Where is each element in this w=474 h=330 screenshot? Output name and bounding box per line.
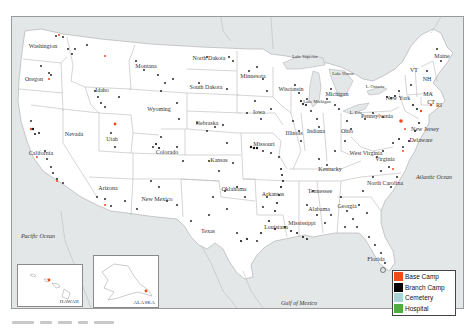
state-label-delaware: Delaware	[410, 137, 433, 143]
state-label-california: California	[29, 150, 53, 156]
state-label-michigan: Michigan	[326, 91, 349, 97]
state-label-new-jersey: New Jersey	[411, 126, 439, 132]
ocean-label-pacific-ocean: Pacific Ocean	[21, 233, 55, 239]
state-label-tennessee: Tennessee	[308, 188, 333, 194]
state-label-colorado: Colorado	[156, 149, 178, 155]
lake-label-lake-michigan: Lake Michigan	[303, 99, 330, 104]
hawaii-inset: HAWAII	[17, 264, 83, 307]
state-label-wyoming: Wyoming	[147, 106, 171, 112]
hawaii-label: HAWAII	[60, 299, 79, 304]
ocean-label-atlantic-ocean: Atlantic Ocean	[416, 174, 452, 180]
map-caption	[12, 318, 114, 326]
state-label-north-carolina: North Carolina	[367, 180, 403, 186]
state-label-nh: NH	[423, 76, 432, 82]
map-frame: WashingtonOregonCaliforniaNevadaIdahoMon…	[11, 16, 464, 309]
state-label-washington: Washington	[29, 43, 58, 49]
state-label-oklahoma: Oklahoma	[222, 186, 247, 192]
state-label-kentucky: Kentucky	[318, 166, 341, 172]
state-label-indiana: Indiana	[307, 128, 325, 134]
state-label-pennsylvania: Pennsylvania	[361, 113, 393, 119]
ocean-label-gulf-of-mexico: Gulf of Mexico	[281, 300, 317, 306]
legend-item-base-camp: Base Camp	[393, 272, 455, 282]
state-label-florida: Florida	[367, 256, 384, 262]
state-label-minnesota: Minnesota	[240, 73, 265, 79]
state-label-new-mexico: New Mexico	[141, 196, 172, 202]
state-label-nebraska: Nebraska	[196, 120, 219, 126]
state-label-ri: RI	[436, 102, 442, 108]
state-label-louisiana: Louisiana	[264, 224, 288, 230]
state-label-alabama: Alabama	[308, 206, 330, 212]
state-label-illinois: Illinois	[285, 130, 302, 136]
state-label-maine: Maine	[434, 53, 449, 59]
state-label-nevada: Nevada	[65, 131, 83, 137]
state-label-wisconsin: Wisconsin	[278, 86, 303, 92]
legend-label: Cemetery	[405, 294, 433, 301]
lake-label-l-ontario: L. Ontario	[366, 84, 385, 89]
florida-marker	[381, 268, 386, 273]
state-label-south-dakota: South Dakota	[190, 84, 223, 90]
state-label-oregon: Oregon	[25, 76, 43, 82]
state-label-new-york: New York	[386, 95, 410, 101]
state-label-vt: VT	[410, 67, 418, 73]
us-landmass	[18, 29, 453, 279]
state-label-ohio: Ohio	[341, 128, 353, 134]
map-legend: Base Camp Branch Camp Cemetery Hospital	[392, 270, 456, 316]
branch-camp-swatch	[394, 283, 403, 292]
cemetery-swatch	[394, 293, 403, 302]
state-label-idaho: Idaho	[95, 87, 109, 93]
alaska-label: ALASKA	[134, 300, 155, 305]
alaska-inset: ALASKA	[93, 255, 159, 308]
state-label-texas: Texas	[201, 228, 215, 234]
state-label-missouri: Missouri	[253, 141, 274, 147]
state-label-georgia: Georgia	[337, 203, 356, 209]
legend-label: Base Camp	[405, 273, 439, 280]
state-label-iowa: Iowa	[253, 109, 265, 115]
legend-item-hospital: Hospital	[393, 303, 455, 313]
state-label-virginia: Virginia	[375, 156, 395, 162]
lake-label-lake-superior: Lake Superior	[292, 54, 318, 59]
hospital-swatch	[394, 304, 403, 313]
lake-label-lake-huron: Lake Huron	[332, 71, 354, 76]
state-label-kansas: Kansas	[210, 157, 227, 163]
legend-label: Hospital	[405, 305, 428, 312]
lake-label-l-erie: L. Erie	[350, 110, 363, 115]
state-label-ma: MA	[423, 91, 433, 97]
legend-label: Branch Camp	[405, 284, 445, 291]
state-label-utah: Utah	[106, 136, 118, 142]
state-label-mississippi: Mississippi	[288, 220, 315, 226]
base-camp-swatch	[394, 272, 403, 281]
legend-item-cemetery: Cemetery	[393, 293, 455, 303]
state-label-arizona: Arizona	[98, 185, 117, 191]
state-label-montana: Montana	[135, 63, 156, 69]
state-label-north-dakota: North Dakota	[193, 55, 226, 61]
state-label-ct: CT	[427, 99, 435, 105]
legend-item-branch-camp: Branch Camp	[393, 282, 455, 292]
state-label-arkansas: Arkansas	[262, 191, 284, 197]
